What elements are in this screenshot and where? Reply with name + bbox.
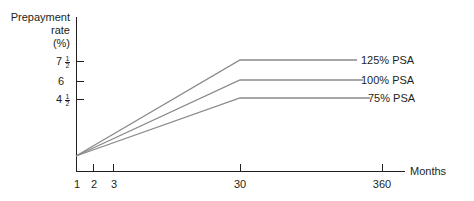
x-tick-label-3: 3 [111, 178, 117, 190]
fraction: 12 [65, 56, 70, 69]
y-tick-label-6: 6 [58, 75, 64, 87]
series-label-125-psa: 125% PSA [361, 54, 414, 66]
fraction-denominator: 2 [66, 63, 70, 69]
y-tick-label-7-5: 712 [56, 55, 70, 69]
series-line-100-psa [76, 80, 363, 156]
fraction-denominator: 2 [66, 101, 70, 107]
y-tick-whole: 4 [56, 93, 62, 105]
fraction: 12 [65, 94, 70, 107]
x-axis-label: Months [410, 165, 446, 177]
x-tick-label-2: 2 [91, 178, 97, 190]
series-label-75-psa: 75% PSA [368, 92, 415, 104]
y-tick-whole: 6 [58, 75, 64, 87]
series-line-75-psa [76, 98, 370, 156]
y-axis-label-line-1: Prepayment [11, 11, 70, 23]
y-axis-label-line-3: (%) [53, 37, 70, 49]
series-label-100-psa: 100% PSA [361, 74, 414, 86]
x-tick-label-30: 30 [234, 178, 246, 190]
y-tick-whole: 7 [56, 55, 62, 67]
y-tick-label-4-5: 412 [56, 93, 70, 107]
x-tick-label-360: 360 [373, 178, 391, 190]
y-axis-label-line-2: rate [51, 24, 70, 36]
x-tick-label-1: 1 [74, 178, 80, 190]
